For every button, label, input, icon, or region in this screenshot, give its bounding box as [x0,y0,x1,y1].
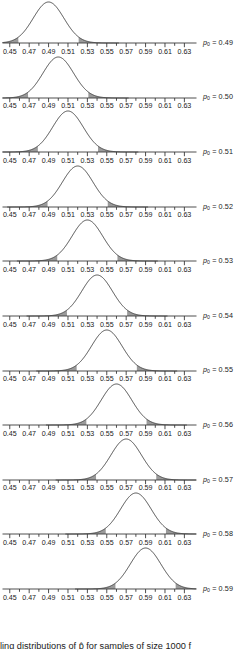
distribution-panel: 0.450.470.490.510.530.550.570.590.610.63… [0,544,248,603]
panel-p0-label: p0 = 0.49 [203,39,233,47]
normal-density-curve [17,220,158,261]
figure-caption: ling distributions of p̂ for samples of … [0,641,248,649]
panel-p0-label: p0 = 0.57 [203,476,233,484]
normal-density-curve [27,275,168,316]
panel-p0-label: p0 = 0.51 [203,148,233,156]
normal-density-curve [7,166,148,207]
panel-p0-label: p0 = 0.50 [203,93,233,101]
distribution-panel: 0.450.470.490.510.530.550.570.590.610.63… [0,216,248,275]
x-axis-tick-label: 0.59 [139,595,153,602]
x-axis-tick-label: 0.55 [100,595,114,602]
normal-density-curve [56,439,196,480]
panel-p0-label: p0 = 0.59 [203,585,233,593]
x-axis-tick-label: 0.51 [61,595,75,602]
x-axis-tick-label: 0.57 [119,595,133,602]
normal-density-curve [75,548,196,589]
normal-density-curve [3,111,139,152]
panel-p0-label: p0 = 0.56 [203,421,233,429]
distribution-panel: 0.450.470.490.510.530.550.570.590.610.63… [0,271,248,330]
sampling-distributions-figure: 0.450.470.490.510.530.550.570.590.610.63… [0,0,248,649]
distribution-panel: 0.450.470.490.510.530.550.570.590.610.63… [0,53,248,112]
distribution-panel: 0.450.470.490.510.530.550.570.590.610.63… [0,0,248,57]
normal-density-curve [65,493,196,534]
normal-density-curve [3,57,129,98]
panel-p0-label: p0 = 0.54 [203,312,233,320]
panel-p0-label: p0 = 0.58 [203,530,233,538]
distribution-panel: 0.450.470.490.510.530.550.570.590.610.63… [0,107,248,166]
x-axis-tick-label: 0.49 [42,595,56,602]
distribution-panel: 0.450.470.490.510.530.550.570.590.610.63… [0,489,248,548]
distribution-panel: 0.450.470.490.510.530.550.570.590.610.63… [0,162,248,221]
distribution-panel: 0.450.470.490.510.530.550.570.590.610.63… [0,435,248,494]
panel-p0-label: p0 = 0.52 [203,203,233,211]
x-axis-tick-label: 0.53 [81,595,95,602]
x-axis-tick-label: 0.63 [178,595,192,602]
panel-p0-label: p0 = 0.53 [203,257,233,265]
x-axis-tick-label: 0.61 [158,595,172,602]
normal-density-curve [36,330,177,371]
x-axis-tick-label: 0.45 [3,595,17,602]
normal-density-curve [46,384,187,425]
x-axis-tick-label: 0.47 [22,595,36,602]
normal-density-curve [3,2,119,43]
panel-p0-label: p0 = 0.55 [203,366,233,374]
distribution-panel: 0.450.470.490.510.530.550.570.590.610.63… [0,326,248,385]
distribution-panel: 0.450.470.490.510.530.550.570.590.610.63… [0,380,248,439]
